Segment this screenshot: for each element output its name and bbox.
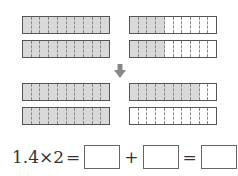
bar-cell — [191, 84, 200, 100]
bar-cell — [67, 41, 76, 57]
bar-top-left-1 — [22, 16, 110, 34]
bar-cell — [75, 108, 84, 124]
bar-cell — [139, 108, 148, 124]
bar-cell — [49, 108, 58, 124]
bar-cell — [200, 108, 209, 124]
bar-cell — [93, 108, 102, 124]
bar-bottom-left-2 — [22, 107, 110, 125]
bar-top-right-2 — [129, 40, 217, 58]
bar-cell — [93, 17, 102, 33]
bar-cell — [93, 41, 102, 57]
answer-box-1[interactable] — [84, 145, 120, 169]
bar-cell — [75, 84, 84, 100]
bar-cell — [191, 41, 200, 57]
bar-cell — [84, 41, 93, 57]
bar-cell — [130, 17, 139, 33]
bar-cell — [200, 84, 209, 100]
bar-cell — [32, 108, 41, 124]
bar-cell — [208, 108, 216, 124]
bar-cell — [156, 17, 165, 33]
bar-bottom-right-2 — [129, 107, 217, 125]
bar-cell — [174, 17, 183, 33]
equals-sign-2: = — [183, 147, 197, 167]
bar-cell — [156, 84, 165, 100]
equation-lhs: 1.4×2 — [12, 147, 64, 167]
bar-cell — [23, 17, 32, 33]
bar-cell — [165, 108, 174, 124]
bar-cell — [130, 41, 139, 57]
bar-cell — [139, 41, 148, 57]
bar-cell — [58, 84, 67, 100]
bar-cell — [208, 17, 216, 33]
bar-cell — [32, 17, 41, 33]
bar-cell — [139, 17, 148, 33]
bar-cell — [208, 84, 216, 100]
bar-cell — [67, 17, 76, 33]
bar-cell — [101, 17, 109, 33]
bar-cell — [156, 108, 165, 124]
bar-cell — [49, 17, 58, 33]
bar-cell — [58, 41, 67, 57]
bar-cell — [182, 84, 191, 100]
bar-cell — [75, 17, 84, 33]
bar-cell — [174, 84, 183, 100]
bar-top-left-2 — [22, 40, 110, 58]
bar-cell — [32, 41, 41, 57]
bar-cell — [139, 84, 148, 100]
bar-cell — [165, 41, 174, 57]
bar-cell — [40, 41, 49, 57]
equation: 1.4×2 = + = — [12, 144, 238, 170]
bar-bottom-right-1 — [129, 83, 217, 101]
plus-sign: + — [124, 147, 138, 167]
bar-cell — [23, 108, 32, 124]
bar-cell — [58, 108, 67, 124]
bar-cell — [84, 108, 93, 124]
bar-cell — [23, 41, 32, 57]
bar-cell — [147, 41, 156, 57]
bar-cell — [182, 17, 191, 33]
bar-cell — [40, 84, 49, 100]
bar-cell — [101, 41, 109, 57]
bar-cell — [182, 108, 191, 124]
bar-cell — [101, 84, 109, 100]
bar-cell — [101, 108, 109, 124]
bar-cell — [165, 84, 174, 100]
equals-sign: = — [66, 147, 80, 167]
bar-cell — [147, 17, 156, 33]
bar-cell — [208, 41, 216, 57]
answer-box-3[interactable] — [201, 145, 237, 169]
bar-cell — [40, 17, 49, 33]
bar-cell — [191, 17, 200, 33]
bar-cell — [191, 108, 200, 124]
bar-bottom-left-1 — [22, 83, 110, 101]
bar-cell — [147, 108, 156, 124]
bar-cell — [40, 108, 49, 124]
bar-cell — [67, 84, 76, 100]
bar-cell — [147, 84, 156, 100]
bar-top-right-1 — [129, 16, 217, 34]
bar-cell — [156, 41, 165, 57]
bar-cell — [49, 41, 58, 57]
bar-cell — [182, 41, 191, 57]
bar-cell — [174, 41, 183, 57]
bar-cell — [200, 41, 209, 57]
answer-box-2[interactable] — [143, 145, 179, 169]
bar-cell — [165, 17, 174, 33]
bar-cell — [200, 17, 209, 33]
bar-cell — [67, 108, 76, 124]
bar-cell — [32, 84, 41, 100]
bar-cell — [130, 108, 139, 124]
bar-cell — [49, 84, 58, 100]
bar-cell — [23, 84, 32, 100]
down-arrow-icon — [114, 64, 126, 78]
bar-cell — [84, 17, 93, 33]
bar-cell — [174, 108, 183, 124]
bar-cell — [130, 84, 139, 100]
bar-cell — [84, 84, 93, 100]
bar-cell — [93, 84, 102, 100]
bar-cell — [75, 41, 84, 57]
bar-cell — [58, 17, 67, 33]
